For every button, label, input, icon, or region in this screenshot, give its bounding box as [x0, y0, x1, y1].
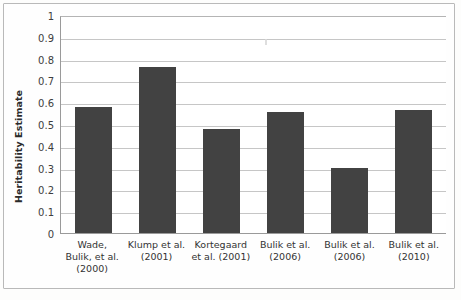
- bar[interactable]: [395, 110, 432, 233]
- y-axis-tick-label: 0.6: [38, 98, 54, 109]
- y-axis-tick-label: 0: [48, 229, 54, 240]
- y-axis-tick-label: 0.4: [38, 141, 54, 152]
- x-axis-tick-label: Wade,Bulik, et al.(2000): [60, 236, 124, 275]
- y-axis-tick-label: 0.3: [38, 163, 54, 174]
- y-axis-tick-labels: 10.90.80.70.60.50.40.30.20.10: [26, 16, 58, 234]
- y-axis-tick-label: 0.7: [38, 76, 54, 87]
- x-axis-tick-label: Kortegaardet al. (2001): [189, 236, 253, 263]
- x-axis-tick-label-line: Wade,: [61, 239, 123, 251]
- x-axis-tick-label-line: Kortegaard: [190, 239, 252, 251]
- plot-area: [60, 16, 446, 234]
- bar[interactable]: [203, 129, 240, 233]
- x-axis-tick-label-line: (2006): [318, 251, 380, 263]
- x-axis-tick-label-line: (2000): [61, 263, 123, 275]
- x-axis-tick-label-line: (2001): [125, 251, 187, 263]
- x-axis-tick-label-line: (2006): [254, 251, 316, 263]
- x-axis-tick-label: Klump et al.(2001): [124, 236, 188, 263]
- y-axis-tick-label: 0.2: [38, 185, 54, 196]
- x-axis-tick-label: Bulik et al.(2006): [253, 236, 317, 263]
- bar-slot: [189, 17, 253, 233]
- y-axis-tick-label: 0.8: [38, 54, 54, 65]
- x-axis-tick-label: Bulik et al.(2006): [317, 236, 381, 263]
- x-axis-tick-label-line: Bulik et al.: [383, 239, 445, 251]
- x-axis-tick-label-line: Klump et al.: [125, 239, 187, 251]
- x-axis-tick-label-line: Bulik et al.: [254, 239, 316, 251]
- figure-root: Heritability Estimate 10.90.80.70.60.50.…: [0, 0, 461, 300]
- y-axis-tick-label: 0.5: [38, 120, 54, 131]
- bar-slot: [125, 17, 189, 233]
- y-axis-tick-label: 0.1: [38, 207, 54, 218]
- bar-slot: [254, 17, 318, 233]
- bars-layer: [61, 17, 446, 233]
- x-axis-tick-label-line: Bulik, et al.: [61, 251, 123, 263]
- bar-slot: [318, 17, 382, 233]
- y-axis-tick-label: 0.9: [38, 32, 54, 43]
- bar[interactable]: [331, 168, 368, 233]
- x-axis-tick-label-line: (2010): [383, 251, 445, 263]
- bar[interactable]: [75, 107, 112, 233]
- x-axis-tick-label-line: et al. (2001): [190, 251, 252, 263]
- chart-frame: Heritability Estimate 10.90.80.70.60.50.…: [3, 3, 455, 289]
- y-axis-tick-label: 1: [48, 11, 54, 22]
- bar[interactable]: [139, 67, 176, 233]
- x-axis-tick-label-line: Bulik et al.: [318, 239, 380, 251]
- bar-slot: [61, 17, 125, 233]
- x-axis-tick-label: Bulik et al.(2010): [382, 236, 446, 263]
- x-axis-tick-labels: Wade,Bulik, et al.(2000)Klump et al.(200…: [60, 236, 446, 286]
- bar-slot: [382, 17, 446, 233]
- bar[interactable]: [267, 112, 304, 233]
- y-axis-title-label: Heritability Estimate: [14, 89, 25, 202]
